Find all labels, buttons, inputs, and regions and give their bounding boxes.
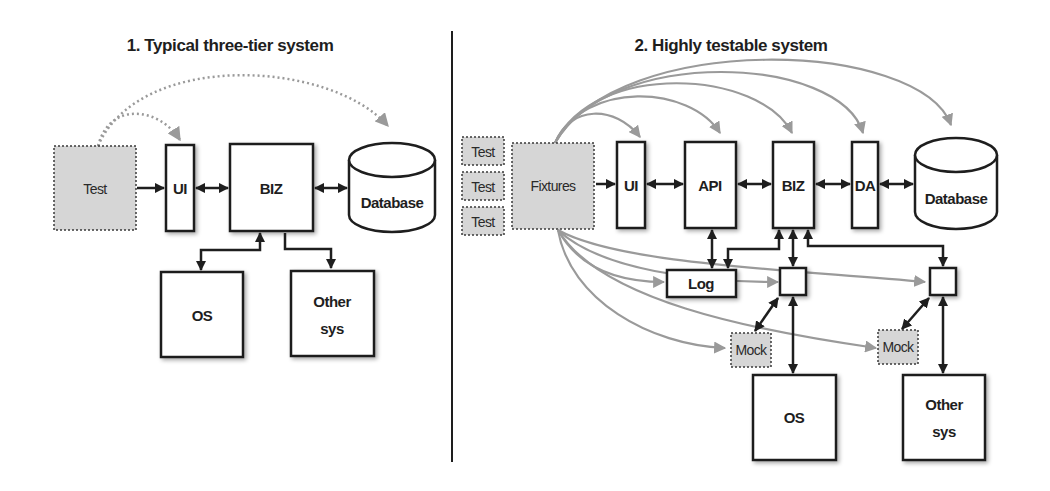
right-panel: 2. Highly testable system Test Test [462,36,997,460]
mock-box-2: Mock [878,330,918,364]
left-panel-title: 1. Typical three-tier system [127,36,334,55]
api-label: API [698,177,722,194]
dotted-arrow-test-to-ui [98,114,180,146]
other-sys-label-line2: sys [320,320,344,337]
grey-arrow-to-database [555,60,951,143]
ui-label: UI [173,180,187,197]
test-label-2: Test [471,179,495,195]
fixtures-label: Fixtures [531,178,577,194]
test-box-3: Test [462,207,504,235]
other-sys-label-line1: Other [313,293,351,310]
other-sys-box [291,271,374,356]
biz-label-2: BIZ [782,177,805,194]
os-label: OS [192,307,213,324]
right-panel-title: 2. Highly testable system [634,36,827,55]
database-label-2: Database [925,190,988,207]
fixture-arcs-top [555,60,951,143]
arrow-biz-log [728,230,779,268]
arrow-adapter2-mock2 [902,298,929,329]
grey-arrow-to-api [555,96,720,143]
database-cylinder-2: Database [915,138,997,229]
da-label: DA [855,177,876,194]
biz-label: BIZ [260,180,283,197]
mock-label-1: Mock [735,342,768,358]
database-label: Database [361,194,424,211]
adapter-box-2 [930,268,956,295]
fixtures-box: Fixtures [512,143,594,229]
ui-label-2: UI [624,177,638,194]
grey-arrow-to-ui [555,114,640,143]
test-label-3: Test [471,214,495,230]
dotted-arrow-test-to-database [98,75,388,146]
diagram-canvas: 1. Typical three-tier system Test UI BIZ… [0,0,1050,491]
test-box-2: Test [462,172,504,200]
arrow-biz-other [285,233,331,268]
fixture-arcs-bottom [558,230,925,348]
mock-label-2: Mock [882,339,915,355]
grey-arrow-to-da [555,72,863,143]
log-label: Log [688,275,714,292]
other-sys-box-2 [903,375,985,460]
mock-box-1: Mock [731,333,771,367]
arrow-biz-adapter2 [808,230,943,266]
other-sys-label-2-line1: Other [925,396,963,413]
test-box-1: Test [462,137,504,165]
test-label: Test [83,181,107,197]
left-panel: 1. Typical three-tier system Test UI BIZ… [54,36,435,357]
adapter-box-1 [780,268,806,295]
arrow-biz-os [201,233,260,270]
test-box: Test [54,146,136,230]
test-label-1: Test [471,144,495,160]
other-sys-label-2-line2: sys [932,423,956,440]
arrow-adapter1-mock1 [755,298,778,331]
os-label-2: OS [784,409,805,426]
database-cylinder: Database [349,143,435,232]
